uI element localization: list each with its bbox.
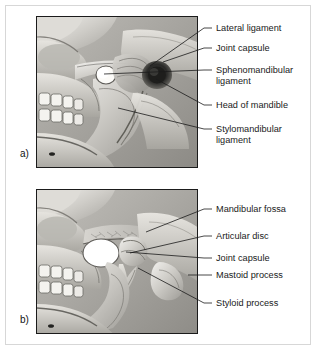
panel-b-illustration xyxy=(37,190,198,334)
figure-temporomandibular-joint: a) b) Lateral li xyxy=(0,0,319,357)
label-joint-capsule-b: Joint capsule xyxy=(216,253,270,264)
label-joint-capsule: Joint capsule xyxy=(216,43,270,54)
mental-foramen xyxy=(49,152,55,156)
label-head-of-mandible: Head of mandible xyxy=(216,100,288,111)
panel-a-artwork-frame xyxy=(36,16,198,168)
mental-foramen-b xyxy=(48,324,54,328)
panel-b-letter: b) xyxy=(20,314,29,325)
label-lateral-ligament: Lateral ligament xyxy=(216,23,281,34)
label-mastoid-process: Mastoid process xyxy=(216,270,283,281)
panel-a-letter: a) xyxy=(20,148,29,159)
panel-a xyxy=(36,16,198,168)
label-sphenomandibular-ligament: Sphenomandibular ligament xyxy=(216,65,293,87)
panel-a-illustration xyxy=(37,17,198,168)
label-stylomandibular-ligament: Stylomandibular ligament xyxy=(216,124,282,146)
panel-b xyxy=(36,189,198,334)
label-mandibular-fossa: Mandibular fossa xyxy=(216,204,286,215)
label-styloid-process: Styloid process xyxy=(216,298,278,309)
panel-b-artwork-frame xyxy=(36,189,198,334)
label-articular-disc: Articular disc xyxy=(216,231,269,242)
